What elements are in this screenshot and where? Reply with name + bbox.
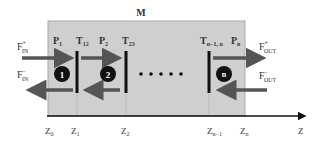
- label-f-in-plus: F+IN: [17, 40, 29, 54]
- label-f-out-minus: F−OUT: [259, 69, 277, 83]
- axis-tick-zn-1: Zn−1: [207, 126, 222, 137]
- layer-circle-2: 2: [100, 66, 116, 82]
- axis-tick-zn: Zn: [240, 126, 249, 137]
- label-f-in-minus: F−IN: [17, 68, 29, 82]
- region-label: M: [136, 7, 146, 18]
- multilayer-diagram: M 1 2 n P1 T12 P2 T23 Tn−1, n Pn F+IN F−: [0, 0, 324, 147]
- label-f-out-plus: F+OUT: [259, 40, 277, 54]
- layer-circle-1: 1: [54, 66, 70, 82]
- svg-text:1: 1: [60, 70, 65, 80]
- svg-text:n: n: [222, 70, 227, 79]
- layer-circle-n: n: [216, 66, 232, 82]
- axis-tick-z2: Z2: [121, 126, 130, 137]
- axis-tick-z0: Z0: [45, 126, 54, 137]
- svg-text:2: 2: [106, 70, 111, 80]
- axis-tick-z1: Z1: [71, 126, 80, 137]
- axis-label-z: Z: [298, 126, 304, 136]
